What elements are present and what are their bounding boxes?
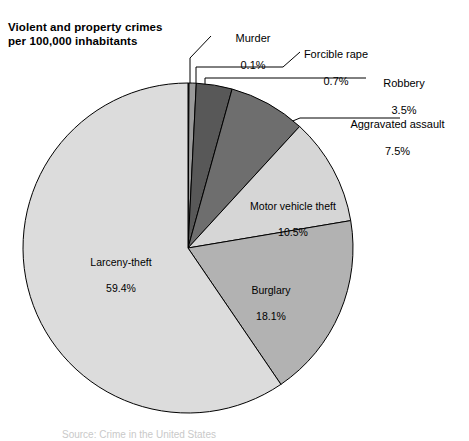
slice-label-motor-vehicle-theft: Motor vehicle theft 10.5% — [228, 187, 358, 252]
slice-label-burglary-value: 18.1% — [216, 310, 326, 323]
slice-label-motor-vehicle-theft-name: Motor vehicle theft — [228, 200, 358, 213]
page-title: Violent and property crimes per 100,000 … — [8, 20, 218, 48]
slice-label-burglary-name: Burglary — [216, 284, 326, 297]
callout-forcible-rape-label: Forcible rape — [281, 48, 391, 62]
callout-robbery-label: Robbery — [365, 77, 443, 91]
callout-aggravated-assault-value: 7.5% — [331, 145, 464, 159]
source-note: Source: Crime in the United States — [62, 429, 216, 441]
slice-label-larceny-theft-name: Larceny-theft — [66, 256, 176, 269]
slice-label-burglary: Burglary 18.1% — [216, 271, 326, 336]
slice-label-larceny-theft: Larceny-theft 59.4% — [66, 243, 176, 308]
callout-aggravated-assault: Aggravated assault 7.5% — [331, 104, 464, 172]
slice-label-larceny-theft-value: 59.4% — [66, 282, 176, 295]
slice-label-motor-vehicle-theft-value: 10.5% — [228, 226, 358, 239]
callout-aggravated-assault-label: Aggravated assault — [331, 118, 464, 132]
